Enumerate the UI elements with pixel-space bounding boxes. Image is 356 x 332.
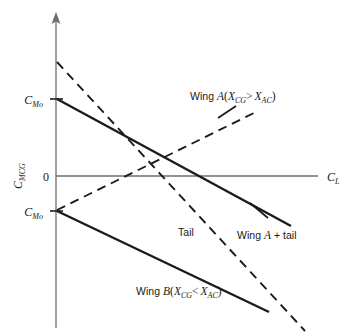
wing-a-tail-plus: + tail xyxy=(274,229,296,241)
leader-wing-a-tail xyxy=(250,203,268,218)
wing-a-relation: > xyxy=(246,90,253,102)
cmo-upper-subscript: Mo xyxy=(31,100,43,109)
axes-group xyxy=(52,12,319,328)
svg-text:CMo: CMo xyxy=(24,205,43,221)
leader-wing-a xyxy=(218,106,236,118)
curve-wing-a xyxy=(57,112,256,210)
wing-b-annotation: Wing B(XCG<XAC) xyxy=(136,285,222,300)
wing-b-relation: < xyxy=(192,285,199,297)
x-axis-subscript: L xyxy=(334,177,340,186)
svg-text:B(XCG<XAC): B(XCG<XAC) xyxy=(163,285,222,300)
svg-text:CMo: CMo xyxy=(24,93,43,109)
svg-text:CMCG: CMCG xyxy=(11,163,27,189)
wing-b-paren-close: ) xyxy=(218,285,222,298)
svg-text:Wing: Wing xyxy=(190,90,214,102)
wing-a-sub1: CG xyxy=(235,96,246,105)
x-axis-label: CL xyxy=(327,170,340,186)
tail-annotation: Tail xyxy=(178,226,194,238)
svg-text:A: A xyxy=(263,229,272,241)
wing-b-word: Wing xyxy=(136,285,160,297)
wing-a-annotation: Wing A(XCG>XAC) xyxy=(190,90,276,105)
zero-label: 0 xyxy=(43,170,49,184)
wing-a-sub2: AC xyxy=(261,96,273,105)
svg-text:Wing: Wing xyxy=(136,285,160,297)
wing-a-tail-annotation: Wing A + tail xyxy=(237,229,296,241)
y-axis-subscript: MCG xyxy=(18,163,27,182)
cmo-upper-label: CMo xyxy=(24,93,43,109)
moment-coefficient-chart: CMCG CL 0 CMo CMo Wing xyxy=(0,0,356,332)
wing-a-tail-word: Wing xyxy=(237,229,261,241)
wing-a-word: Wing xyxy=(190,90,214,102)
wing-b-sub1: CG xyxy=(181,291,192,300)
svg-text:+ tail: + tail xyxy=(274,229,296,241)
cmo-lower-subscript: Mo xyxy=(31,212,43,221)
svg-text:CL: CL xyxy=(327,170,340,186)
cmo-lower-label: CMo xyxy=(24,205,43,221)
wing-b-letter: B xyxy=(163,285,170,297)
wing-b-sub2: AC xyxy=(207,291,219,300)
svg-text:A(XCG>XAC): A(XCG>XAC) xyxy=(216,90,276,105)
svg-text:Wing: Wing xyxy=(237,229,261,241)
chart-container: CMCG CL 0 CMo CMo Wing xyxy=(0,0,356,332)
wing-a-paren-close: ) xyxy=(272,90,276,103)
wing-a-tail-letter: A xyxy=(263,229,272,241)
y-axis-label: CMCG xyxy=(11,163,27,189)
